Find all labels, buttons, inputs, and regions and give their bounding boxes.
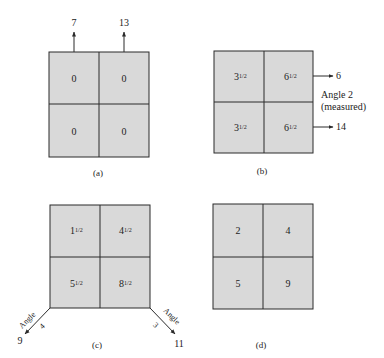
projection-value-row2: 14 bbox=[336, 121, 346, 132]
cell-d-r1c2: 4 bbox=[286, 225, 291, 236]
projection-value-diag-right: 11 bbox=[174, 338, 184, 349]
caption-d: (d) bbox=[256, 340, 267, 350]
panel-a: 0 0 0 0 7 13 (a) bbox=[49, 17, 149, 178]
projection-value-diag-left: 9 bbox=[18, 335, 23, 346]
projection-value-col1: 7 bbox=[72, 17, 77, 28]
caption-c: (c) bbox=[92, 340, 102, 350]
cell-a-r1c1: 0 bbox=[72, 73, 77, 84]
panel-d: 2 4 5 9 (d) bbox=[213, 204, 313, 350]
cell-d-r2c2: 9 bbox=[286, 278, 291, 289]
caption-b: (b) bbox=[257, 166, 268, 176]
angle-4-word: Angle bbox=[17, 310, 38, 331]
cell-d-r1c1: 2 bbox=[236, 225, 241, 236]
angle-3-number: 3 bbox=[151, 321, 160, 330]
projection-value-row1: 6 bbox=[336, 70, 341, 81]
panel-b: 31/2 61/2 31/2 61/2 6 14 Angle 2 (measur… bbox=[214, 51, 366, 176]
angle-4-number: 4 bbox=[38, 322, 47, 331]
angle-label-line1: Angle 2 bbox=[321, 89, 353, 100]
caption-a: (a) bbox=[93, 168, 103, 178]
figure-canvas: 0 0 0 0 7 13 (a) 31/2 61/2 31/2 61/2 6 1… bbox=[0, 0, 384, 358]
cell-a-r2c1: 0 bbox=[72, 126, 77, 137]
projection-value-col2: 13 bbox=[119, 17, 129, 28]
panel-c: 11/2 41/2 51/2 81/2 Angle 4 9 Angle 3 11… bbox=[17, 205, 184, 350]
cell-a-r1c2: 0 bbox=[122, 73, 127, 84]
cell-d-r2c1: 5 bbox=[236, 278, 241, 289]
cell-a-r2c2: 0 bbox=[122, 126, 127, 137]
angle-label-line2: (measured) bbox=[321, 101, 366, 113]
